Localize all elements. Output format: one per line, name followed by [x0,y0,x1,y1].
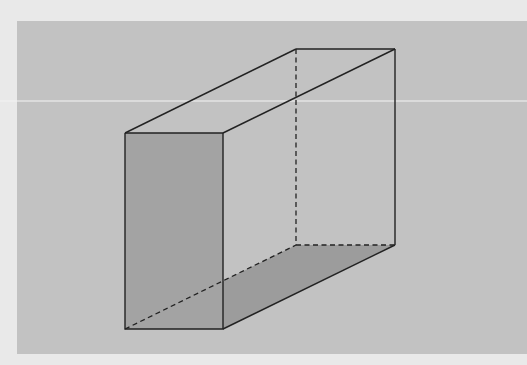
front-face [125,133,223,329]
prism-diagram [0,0,527,365]
diagram-canvas [0,0,527,365]
